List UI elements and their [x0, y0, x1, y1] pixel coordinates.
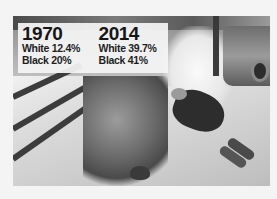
shrubs — [83, 76, 168, 186]
black-percentage: Black 20% — [22, 55, 99, 67]
stats-1970: 1970 White 12.4% Black 20% — [22, 25, 99, 71]
white-percentage: White 39.7% — [99, 43, 164, 55]
hat-on-ground — [130, 166, 150, 180]
stats-2014: 2014 White 39.7% Black 41% — [99, 25, 164, 71]
year-label: 1970 — [22, 25, 99, 43]
figure-head — [171, 88, 187, 100]
white-percentage: White 12.4% — [22, 43, 99, 55]
year-label: 2014 — [99, 25, 164, 43]
utility-pole — [213, 16, 219, 76]
stats-overlay: 1970 White 12.4% Black 20% 2014 White 39… — [18, 23, 168, 73]
black-percentage: Black 41% — [99, 55, 164, 67]
car-wheel — [251, 60, 269, 82]
